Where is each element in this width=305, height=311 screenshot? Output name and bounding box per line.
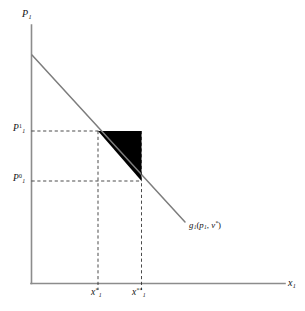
- price-tick-label-low: P01: [13, 174, 25, 184]
- price-axis-label: P1: [22, 9, 32, 20]
- quantity-tick-label-star: x*1: [91, 288, 102, 298]
- quantity-axis-label: x1: [288, 278, 296, 289]
- price-axis-label-sub: 1: [28, 13, 31, 20]
- figure-container: P1 x1 P11 P01 x*1 x**1 g1(p1, v*): [0, 0, 305, 311]
- quantity-tick-dstar-sub: 1: [143, 292, 146, 298]
- price-tick-high-sub: 1: [22, 128, 25, 134]
- quantity-tick-dstar-sup: **: [137, 287, 143, 293]
- price-tick-low-sub: 1: [22, 178, 25, 184]
- quantity-axis-label-main: x: [288, 277, 292, 288]
- plot-canvas: [0, 0, 305, 311]
- price-tick-low-main: P: [13, 173, 19, 183]
- price-tick-label-high: P11: [13, 124, 25, 134]
- quantity-tick-star-sup: *: [96, 287, 99, 293]
- curve-label-func: g: [189, 220, 193, 230]
- quantity-tick-label-double-star: x**1: [132, 288, 146, 298]
- curve-label-close-paren: ): [218, 220, 221, 230]
- demand-curve-label: g1(p1, v*): [189, 221, 221, 231]
- quantity-axis-label-sub: 1: [293, 282, 296, 289]
- welfare-change-triangle: [98, 131, 142, 181]
- price-tick-high-main: P: [13, 123, 19, 133]
- quantity-tick-dstar-main: x: [132, 287, 136, 297]
- quantity-tick-star-main: x: [91, 287, 95, 297]
- compensated-demand-curve: [32, 55, 185, 222]
- quantity-tick-star-sub: 1: [99, 292, 102, 298]
